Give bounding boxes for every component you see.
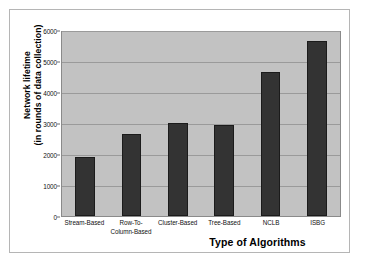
- y-axis-tick-label: 3000: [43, 121, 57, 128]
- y-axis-tick-labels: 0100020003000400050006000: [24, 31, 60, 217]
- x-axis-tick-label-line: Column-Based: [108, 228, 155, 237]
- x-axis-tick-label-line: NCLB: [248, 219, 295, 228]
- y-axis-tick-label: 1000: [43, 183, 57, 190]
- bar-slot: [155, 32, 201, 216]
- x-axis-tick-label-line: Row-To-: [108, 219, 155, 228]
- x-axis-title: Type of Algorithms: [175, 236, 340, 248]
- bars-layer: [62, 32, 340, 216]
- y-axis-tick-mark: [57, 186, 60, 187]
- bar-slot: [201, 32, 247, 216]
- y-axis-tick-label: 5000: [43, 59, 57, 66]
- chart-card: Network lifetime (in rounds of data coll…: [9, 9, 350, 253]
- x-axis-tick-label-line: Stream-Based: [61, 219, 108, 228]
- x-axis-tick-label: NCLB: [248, 219, 295, 236]
- y-axis-tick-mark: [57, 124, 60, 125]
- bar[interactable]: [168, 123, 187, 216]
- x-axis-tick-label-line: ISBG: [294, 219, 341, 228]
- x-axis-tick-label: Tree-Based: [201, 219, 248, 236]
- bar[interactable]: [122, 134, 141, 216]
- bar-slot: [247, 32, 293, 216]
- x-axis-tick-label: Row-To-Column-Based: [108, 219, 155, 236]
- bar-slot: [62, 32, 108, 216]
- plot-area: [61, 31, 341, 217]
- y-axis-tick-label: 6000: [43, 28, 57, 35]
- y-axis-tick-mark: [57, 31, 60, 32]
- x-axis-tick-label: ISBG: [294, 219, 341, 236]
- bar[interactable]: [307, 41, 326, 216]
- bar[interactable]: [261, 72, 280, 216]
- bar-slot: [108, 32, 154, 216]
- x-axis-tick-label: Cluster-Based: [154, 219, 201, 236]
- y-axis-tick-mark: [57, 62, 60, 63]
- bar[interactable]: [75, 157, 94, 216]
- x-axis-tick-label-line: Cluster-Based: [154, 219, 201, 228]
- y-axis-tick-mark: [57, 217, 60, 218]
- y-axis-tick-mark: [57, 93, 60, 94]
- x-axis-tick-label-line: Tree-Based: [201, 219, 248, 228]
- y-axis-tick-mark: [57, 155, 60, 156]
- bar-slot: [294, 32, 340, 216]
- x-axis-tick-label: Stream-Based: [61, 219, 108, 236]
- bar[interactable]: [214, 125, 233, 216]
- y-axis-tick-label: 4000: [43, 90, 57, 97]
- y-axis-tick-label: 2000: [43, 152, 57, 159]
- x-axis-tick-labels: Stream-BasedRow-To-Column-BasedCluster-B…: [61, 219, 341, 236]
